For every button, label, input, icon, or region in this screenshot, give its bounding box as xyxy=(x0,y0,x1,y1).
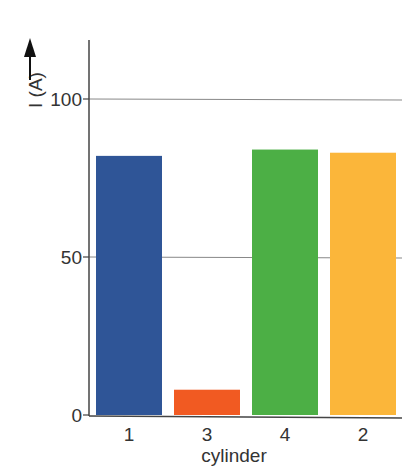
y-axis-label: I (A) xyxy=(25,72,46,108)
x-tick-label: 2 xyxy=(358,424,369,445)
x-axis xyxy=(89,416,402,418)
bar-cylinder-4 xyxy=(252,150,318,415)
bar-cylinder-3 xyxy=(174,390,240,415)
x-ticks: 1342 xyxy=(124,424,369,445)
gridline xyxy=(89,99,402,100)
y-ticks: 050100 xyxy=(50,89,89,426)
x-axis-label: cylinder xyxy=(201,445,267,466)
y-tick-label: 0 xyxy=(71,405,82,426)
x-tick-label: 4 xyxy=(280,424,291,445)
bar-cylinder-1 xyxy=(96,156,162,415)
y-tick-label: 50 xyxy=(61,247,82,268)
bar-cylinder-2 xyxy=(330,153,396,415)
bar-chart: 050100 1342 cylinder I (A) xyxy=(0,0,416,475)
y-tick-label: 100 xyxy=(50,89,82,110)
bars xyxy=(96,150,396,415)
x-tick-label: 1 xyxy=(124,424,135,445)
x-tick-label: 3 xyxy=(202,424,213,445)
